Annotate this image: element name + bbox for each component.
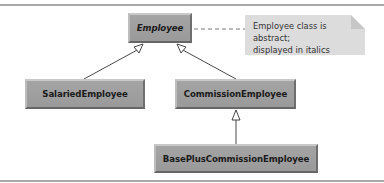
class-commission-employee: CommissionEmployee [175, 79, 296, 109]
generalization-line-commission [181, 49, 236, 79]
hollow-triangle-arrowhead-icon [134, 44, 143, 53]
abstract-note: Employee class is abstract; displayed in… [245, 15, 365, 55]
class-base-plus-commission-employee: BasePlusCommissionEmployee [154, 144, 318, 173]
class-salaried-employee: SalariedEmployee [25, 79, 145, 109]
note-line-1: Employee class is abstract; [253, 20, 359, 44]
hollow-triangle-arrowhead-icon [232, 110, 240, 120]
note-folded-corner-icon [351, 15, 365, 29]
class-employee: Employee [128, 13, 192, 43]
note-line-2: displayed in italics [253, 44, 359, 56]
hollow-triangle-arrowhead-icon [177, 44, 186, 53]
generalization-line-salaried [84, 49, 139, 79]
